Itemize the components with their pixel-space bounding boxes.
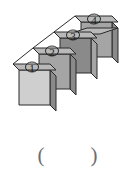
cube-1-front-face	[19, 70, 50, 105]
cube-diagram-page: 1 2 3 4 ( )	[0, 0, 135, 175]
cube-stack-figure: 1 2 3 4	[0, 0, 135, 135]
cube-3-right-face	[91, 38, 97, 79]
cube-1-right-face	[50, 70, 56, 111]
cube-1	[13, 64, 56, 111]
close-paren: )	[91, 145, 98, 166]
answer-blank[interactable]: ( )	[0, 136, 135, 175]
answer-input-space[interactable]	[45, 155, 91, 156]
cube-2-right-face	[70, 54, 76, 95]
cube-stack-svg: 1 2 3 4	[0, 0, 135, 135]
open-paren: (	[38, 145, 45, 166]
